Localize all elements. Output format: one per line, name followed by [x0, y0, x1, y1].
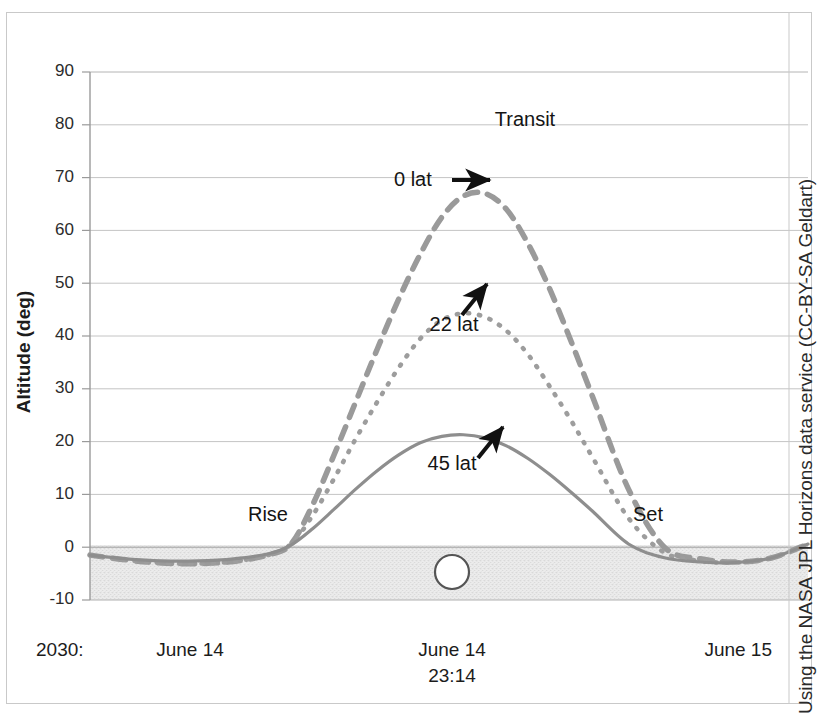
annotation-transit: Transit	[495, 108, 556, 130]
figure-page: 90 80 70 60 50 40 30 20 10 0 -10 Altitud…	[0, 0, 839, 718]
y-tick-label: 70	[55, 167, 74, 186]
y-axis-ticks	[82, 72, 90, 600]
x-axis-label-left: June 14	[156, 639, 224, 660]
y-tick-label: 50	[55, 273, 74, 292]
y-tick-label: 40	[55, 325, 74, 344]
y-tick-label: 90	[55, 61, 74, 80]
y-tick-label: -10	[49, 589, 74, 608]
annotation-set: Set	[633, 503, 663, 525]
y-tick-label: 10	[55, 484, 74, 503]
y-tick-label: 60	[55, 220, 74, 239]
annotation-rise: Rise	[248, 503, 288, 525]
y-tick-label: 30	[55, 378, 74, 397]
callout-0-lat: 0 lat	[394, 168, 432, 190]
y-axis-title: Altitude (deg)	[13, 291, 34, 413]
y-axis-tick-labels: 90 80 70 60 50 40 30 20 10 0 -10	[49, 61, 74, 608]
x-axis-label-center-date: June 14	[418, 639, 486, 660]
body-disc-icon	[435, 555, 469, 589]
credit-attribution: Using the NASA JPL Horizons data service…	[795, 179, 816, 714]
callout-45-lat: 45 lat	[428, 452, 477, 474]
x-axis-year-label: 2030:	[36, 639, 84, 660]
x-axis-label-center-time: 23:14	[428, 665, 476, 686]
y-tick-label: 0	[65, 537, 74, 556]
x-axis-label-right: June 15	[704, 639, 772, 660]
y-tick-label: 20	[55, 431, 74, 450]
altitude-vs-time-chart: 90 80 70 60 50 40 30 20 10 0 -10 Altitud…	[0, 0, 839, 718]
y-tick-label: 80	[55, 114, 74, 133]
callout-22-lat: 22 lat	[430, 313, 479, 335]
